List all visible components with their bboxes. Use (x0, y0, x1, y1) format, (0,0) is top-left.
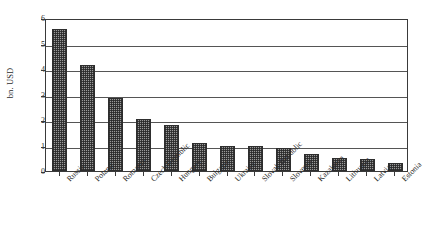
bar (52, 29, 67, 171)
gridline (46, 122, 407, 123)
gridline (46, 46, 407, 47)
x-tick-mark (143, 172, 144, 176)
x-tick-mark (254, 172, 255, 176)
x-tick-mark (282, 172, 283, 176)
x-tick-mark (171, 172, 172, 176)
x-axis-labels: RussiaPolandRomaniaCzech RepublicHungary… (45, 177, 408, 242)
gridline (46, 71, 407, 72)
plot-area (45, 19, 408, 172)
x-tick-mark (87, 172, 88, 176)
bar (80, 65, 95, 171)
bar (108, 98, 123, 171)
bar-chart: bn. USD 6543210 RussiaPolandRomaniaCzech… (0, 0, 431, 242)
x-tick-mark (199, 172, 200, 176)
x-tick-mark (310, 172, 311, 176)
gridline (46, 97, 407, 98)
x-tick-mark (59, 172, 60, 176)
x-tick-mark (394, 172, 395, 176)
y-axis: 6543210 (0, 0, 45, 242)
x-tick-mark (227, 172, 228, 176)
x-tick-mark (338, 172, 339, 176)
x-tick-mark (366, 172, 367, 176)
x-tick-mark (115, 172, 116, 176)
